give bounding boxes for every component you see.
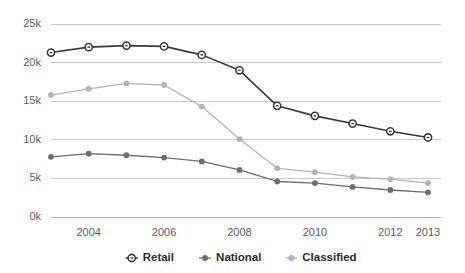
- legend-label-classified: Classified: [302, 251, 356, 263]
- legend-item-classified[interactable]: Classified: [285, 251, 356, 263]
- data-point-marker: [161, 155, 167, 161]
- legend-marker-classified: [288, 255, 294, 261]
- data-point-marker: [425, 189, 431, 195]
- series-national: [48, 151, 431, 195]
- legend-marker-national: [202, 255, 208, 261]
- legend-label-national: National: [216, 251, 261, 263]
- x-tick-label: 2006: [152, 226, 176, 238]
- data-point-marker: [312, 169, 318, 175]
- y-axis-labels: 0k5k10k15k20k25k: [23, 17, 41, 222]
- series-line-national: [51, 154, 428, 193]
- data-point-marker: [274, 165, 280, 171]
- y-tick-label: 20k: [23, 56, 41, 68]
- data-point-marker: [48, 154, 54, 160]
- y-tick-label: 25k: [23, 17, 41, 29]
- series-line-retail: [51, 46, 428, 138]
- data-point-marker: [350, 184, 356, 190]
- data-point-marker: [237, 136, 243, 142]
- legend-item-national[interactable]: National: [199, 251, 261, 263]
- data-point-marker: [274, 179, 280, 185]
- x-tick-label: 2008: [227, 226, 251, 238]
- data-point-marker: [350, 174, 356, 180]
- y-tick-label: 10k: [23, 133, 41, 145]
- data-point-marker: [312, 180, 318, 186]
- chart-canvas: 0k5k10k15k20k25k200420062008201020122013…: [0, 0, 465, 273]
- data-point-marker: [237, 167, 243, 173]
- data-point-marker: [161, 82, 167, 88]
- chart-legend: RetailNationalClassified: [126, 251, 357, 263]
- data-point-marker: [86, 86, 92, 92]
- legend-item-retail[interactable]: Retail: [126, 251, 174, 263]
- data-point-marker: [124, 81, 130, 87]
- x-tick-label: 2010: [303, 226, 327, 238]
- series-retail: [47, 42, 431, 141]
- data-point-marker: [86, 151, 92, 157]
- x-tick-label: 2013: [416, 226, 440, 238]
- data-point-marker: [48, 92, 54, 98]
- x-tick-label: 2004: [76, 226, 100, 238]
- gridlines: [51, 24, 441, 217]
- y-tick-label: 15k: [23, 94, 41, 106]
- y-tick-label: 0k: [29, 210, 41, 222]
- data-point-marker: [387, 187, 393, 193]
- legend-label-retail: Retail: [143, 251, 174, 263]
- data-point-marker: [124, 152, 130, 158]
- y-tick-label: 5k: [29, 171, 41, 183]
- data-point-marker: [199, 159, 205, 165]
- line-chart: 0k5k10k15k20k25k200420062008201020122013…: [0, 0, 465, 273]
- data-point-marker: [387, 176, 393, 182]
- x-axis-labels: 200420062008201020122013: [76, 226, 440, 238]
- data-point-marker: [199, 104, 205, 110]
- data-point-marker: [425, 180, 431, 186]
- x-tick-label: 2012: [378, 226, 402, 238]
